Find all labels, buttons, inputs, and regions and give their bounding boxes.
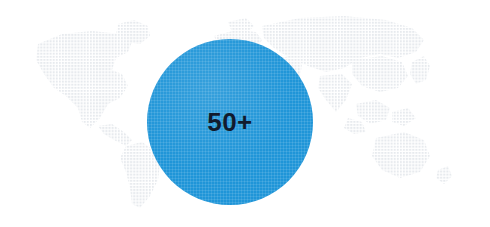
stat-highlight-card: 50+ bbox=[0, 0, 490, 227]
stat-value-label: 50+ bbox=[147, 39, 313, 205]
highlight-circle: 50+ bbox=[147, 39, 313, 205]
